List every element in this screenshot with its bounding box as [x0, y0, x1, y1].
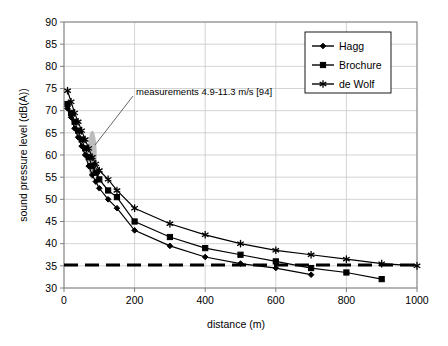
data-point-square [379, 277, 384, 282]
y-tick-label: 80 [45, 60, 57, 72]
sound-pressure-level-chart: 30354045505560657075808590 0200400600800… [0, 0, 448, 346]
legend-label: de Wolf [339, 78, 374, 90]
measurement-annotation-label: measurements 4.9-11.3 m/s [94] [136, 86, 272, 97]
data-point-square [76, 128, 81, 133]
x-tick-label: 0 [61, 294, 67, 306]
data-point-square [68, 110, 73, 115]
y-tick-label: 40 [45, 237, 57, 249]
y-tick-label: 50 [45, 193, 57, 205]
chart-legend: HaggBrochurede Wolf [305, 32, 391, 93]
y-tick-label: 75 [45, 82, 57, 94]
data-point-square [309, 265, 314, 270]
data-point-square [106, 188, 111, 193]
data-point-square [238, 252, 243, 257]
data-point-square [167, 234, 172, 239]
data-point-square [320, 62, 325, 67]
data-point-square [86, 155, 91, 160]
data-point-square [344, 270, 349, 275]
legend-label: Brochure [339, 59, 382, 71]
data-point-square [114, 195, 119, 200]
y-tick-label: 60 [45, 149, 57, 161]
chart-container: 30354045505560657075808590 0200400600800… [0, 0, 448, 346]
x-tick-label: 800 [338, 294, 356, 306]
y-tick-label: 85 [45, 38, 57, 50]
x-tick-label: 600 [267, 294, 285, 306]
data-point-square [97, 177, 102, 182]
data-point-square [132, 219, 137, 224]
x-tick-label: 400 [196, 294, 214, 306]
y-tick-label: 35 [45, 260, 57, 272]
data-point-square [72, 119, 77, 124]
y-tick-label: 65 [45, 127, 57, 139]
x-tick-label: 200 [126, 294, 144, 306]
legend-label: Hagg [339, 40, 364, 52]
x-axis-title: distance (m) [207, 318, 265, 330]
data-point-square [83, 146, 88, 151]
y-tick-label: 55 [45, 171, 57, 183]
data-point-square [79, 137, 84, 142]
data-point-square [203, 246, 208, 251]
y-tick-label: 90 [45, 16, 57, 28]
y-axis-title: sound pressure level (dB(A)) [17, 88, 29, 222]
x-tick-label: 1000 [405, 294, 429, 306]
y-tick-label: 45 [45, 215, 57, 227]
data-point-square [273, 259, 278, 264]
y-tick-label: 70 [45, 104, 57, 116]
y-tick-label: 30 [45, 282, 57, 294]
